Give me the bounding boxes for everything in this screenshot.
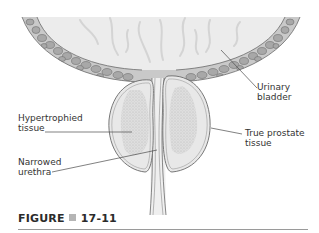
label-narrowed-urethra-line1: Narrowed bbox=[18, 157, 61, 167]
caption-number: 17-11 bbox=[81, 212, 117, 225]
leader-true-prostate-tissue bbox=[211, 128, 242, 134]
prostate-right-lobe bbox=[163, 76, 210, 172]
label-true-prostate-tissue: True prostate tissue bbox=[245, 128, 305, 148]
caption-prefix: FIGURE bbox=[18, 212, 65, 225]
label-narrowed-urethra: Narrowed urethra bbox=[18, 157, 61, 177]
figure-caption: FIGURE17-11 bbox=[18, 212, 117, 225]
caption-rule bbox=[18, 229, 308, 230]
label-urinary-bladder-line1: Urinary bbox=[257, 82, 291, 92]
label-narrowed-urethra-line2: urethra bbox=[18, 167, 61, 177]
label-true-prostate-line1: True prostate bbox=[245, 128, 305, 138]
square-bullet-icon bbox=[69, 214, 76, 221]
label-urinary-bladder: Urinary bladder bbox=[257, 82, 291, 102]
prostate-left-lobe bbox=[109, 80, 154, 172]
label-hypertrophied-tissue: Hypertrophied tissue bbox=[18, 113, 83, 133]
label-hypertrophied-line1: Hypertrophied bbox=[18, 113, 83, 123]
label-urinary-bladder-line2: bladder bbox=[257, 92, 291, 102]
label-true-prostate-line2: tissue bbox=[245, 138, 305, 148]
prostate-hypertrophy-figure: Urinary bladder Hypertrophied tissue Tru… bbox=[0, 0, 319, 233]
label-hypertrophied-line2: tissue bbox=[18, 123, 83, 133]
